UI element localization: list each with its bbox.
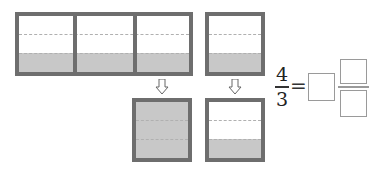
dashed-line <box>136 139 188 140</box>
answer-fraction-line <box>338 86 369 88</box>
dashed-line <box>19 53 189 54</box>
down-arrow-icon <box>228 79 242 95</box>
equals-sign: = <box>290 74 307 98</box>
dashed-line <box>209 53 261 54</box>
dashed-line <box>209 139 261 140</box>
full-container <box>132 98 192 162</box>
dashed-line <box>136 120 188 121</box>
big-container <box>15 12 193 76</box>
whole-number-input[interactable] <box>308 73 335 101</box>
denominator-input[interactable] <box>340 90 367 117</box>
dashed-line <box>19 34 189 35</box>
fill-region <box>19 53 189 72</box>
dashed-line <box>209 120 261 121</box>
fraction-numerator: 4 <box>275 63 289 85</box>
dashed-line <box>209 34 261 35</box>
fill-region <box>136 102 188 158</box>
partial-container <box>205 98 265 162</box>
fill-region <box>209 139 261 158</box>
fraction-denominator: 3 <box>275 88 289 110</box>
cell-divider <box>133 16 137 72</box>
fill-region <box>209 53 261 72</box>
small-container-top <box>205 12 265 76</box>
down-arrow-icon <box>155 79 169 95</box>
numerator-input[interactable] <box>340 59 367 84</box>
cell-divider <box>73 16 77 72</box>
